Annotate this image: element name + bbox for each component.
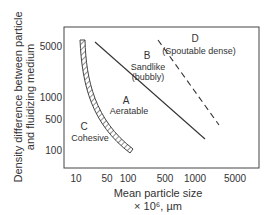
x-tick-50: 50 [101, 173, 113, 184]
x-axis-title-line2: × 10⁶, µm [134, 200, 182, 212]
y-tick-500: 500 [45, 114, 62, 125]
x-tick-100: 100 [120, 173, 137, 184]
x-tick-10: 10 [70, 173, 82, 184]
region-a-letter: A [123, 95, 130, 106]
region-a-name: Aeratable [110, 106, 149, 116]
region-d-letter: D [191, 33, 198, 44]
region-c-letter: C [80, 121, 87, 132]
geldart-chart: 5000 1000 500 100 10 50 100 500 1000 500… [0, 0, 270, 215]
y-tick-100: 100 [45, 145, 62, 156]
region-b-name-line2: (bubbly) [132, 72, 165, 82]
x-tick-500: 500 [157, 173, 174, 184]
y-axis-title-line2: and fluidizing medium [24, 44, 36, 150]
region-c-name: Cohesive [71, 133, 109, 143]
region-b-letter: B [144, 50, 151, 61]
region-b-name-line1: Sandlike [131, 62, 166, 72]
y-tick-1000: 1000 [40, 92, 63, 103]
region-d-name: (Spoutable dense) [162, 46, 236, 56]
x-axis-title-line1: Mean particle size [114, 187, 203, 199]
y-axis-title-line1: Density difference between particle [12, 11, 24, 182]
y-tick-5000: 5000 [40, 41, 63, 52]
x-tick-1000: 1000 [184, 173, 207, 184]
x-tick-5000: 5000 [224, 173, 247, 184]
